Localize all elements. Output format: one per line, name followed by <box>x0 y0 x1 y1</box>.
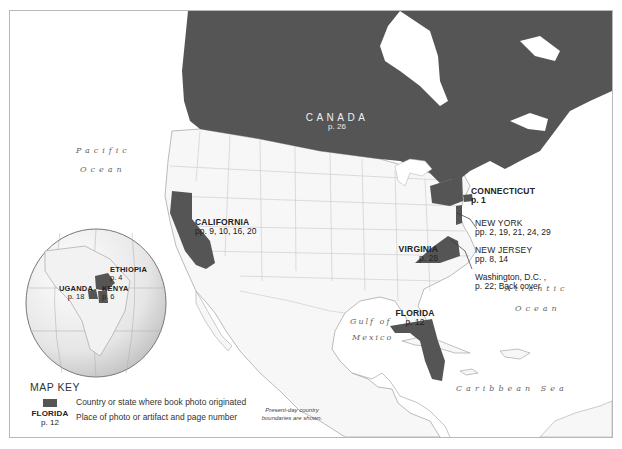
gulf-of-mexico-label-2: Mexico <box>352 333 393 342</box>
canada-label: CANADA p. 26 <box>292 112 382 132</box>
caribbean-sea-label: Caribbean Sea <box>456 384 568 393</box>
hispaniola <box>500 349 530 359</box>
map-key-example-description: Place of photo or artifact and page numb… <box>76 412 237 422</box>
connecticut-label: CONNECTICUT p. 1 <box>471 187 535 206</box>
uganda-label: UGANDA p. 18 <box>54 285 98 302</box>
washington-dc-pages: p. 22; Back cover <box>475 282 546 291</box>
florida-pages: p. 12 <box>395 318 435 327</box>
ethiopia-label: ETHIOPIA p. 4 <box>110 266 147 283</box>
california-label: CALIFORNIA pp. 9, 10, 16, 20 <box>195 218 256 237</box>
south-america-coast <box>540 401 612 437</box>
new-jersey-pages: pp. 8, 14 <box>475 255 532 264</box>
new-york-pages: pp. 2, 19, 21, 24, 29 <box>475 228 551 237</box>
ethiopia-pages: p. 4 <box>110 274 147 282</box>
florida-region <box>390 319 445 381</box>
washington-dc-label: Washington, D.C. , p. 22; Back cover <box>475 273 546 292</box>
connecticut-pages: p. 1 <box>471 196 535 205</box>
map-key-swatch-description: Country or state where book photo origin… <box>76 397 246 407</box>
new-jersey-label: NEW JERSEY pp. 8, 14 <box>475 246 532 265</box>
boundaries-note: Present-day country boundaries are shown… <box>252 407 332 423</box>
map-frame: Pacific Ocean Atlantic Ocean Gulf of Mex… <box>9 10 613 438</box>
pacific-ocean-label-1: Pacific <box>76 146 131 155</box>
map-key-example-label: FLORIDA p. 12 <box>28 410 72 428</box>
virginia-label: VIRGINIA p. 28 <box>390 245 438 264</box>
atlantic-ocean-label-2: Ocean <box>515 304 561 313</box>
globe-inset <box>26 229 166 377</box>
virginia-pages: p. 28 <box>390 254 438 263</box>
canada-pages: p. 26 <box>292 123 382 132</box>
jamaica <box>460 369 478 375</box>
new-york-label: NEW YORK pp. 2, 19, 21, 24, 29 <box>475 219 551 238</box>
gulf-of-mexico-label-1: Gulf of <box>350 317 391 326</box>
uganda-pages: p. 18 <box>54 293 98 301</box>
map-key-example-page: p. 12 <box>28 419 72 428</box>
kenya-label: KENYA p. 6 <box>102 285 129 302</box>
map-key-title: MAP KEY <box>30 381 80 393</box>
boundaries-note-line-2: boundaries are shown. <box>252 415 332 423</box>
kenya-pages: p. 6 <box>102 293 129 301</box>
boundaries-note-line-1: Present-day country <box>252 407 332 415</box>
california-pages: pp. 9, 10, 16, 20 <box>195 227 256 236</box>
pacific-ocean-label-2: Ocean <box>80 165 126 174</box>
map-key-swatch <box>43 399 57 407</box>
florida-label: FLORIDA p. 12 <box>395 309 435 328</box>
